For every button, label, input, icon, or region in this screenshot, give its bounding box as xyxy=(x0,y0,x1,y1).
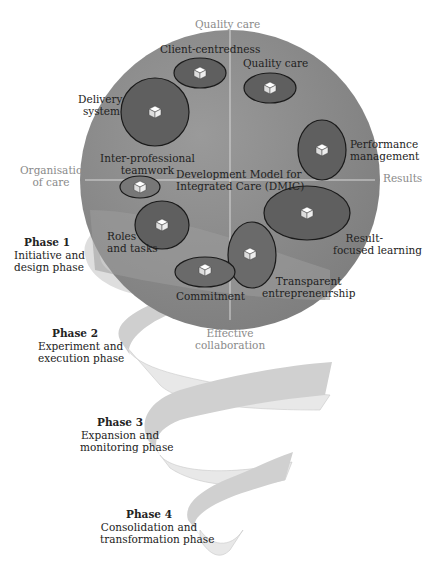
center-label: Development Model for Integrated Care (D… xyxy=(176,168,304,192)
label-line: and tasks xyxy=(107,242,139,254)
label-line: Delivery xyxy=(78,93,120,105)
phase-3-label: Phase 3 Expansion and monitoring phase xyxy=(80,416,160,454)
phase-title: Phase 1 xyxy=(14,236,80,249)
label-inter-professional-teamwork: Inter-professional teamwork xyxy=(100,152,195,176)
label-delivery-system: Delivery system xyxy=(78,93,120,117)
phase-line: monitoring phase xyxy=(80,441,160,454)
axis-left-label: Organisation of care xyxy=(20,164,82,188)
label-line: Performance xyxy=(350,138,419,150)
phase-title: Phase 4 xyxy=(100,508,198,521)
phase-1-label: Phase 1 Initiative and design phase xyxy=(14,236,80,274)
center-label-line1: Development Model for xyxy=(176,168,304,180)
axis-bottom-line2: collaboration xyxy=(195,339,265,351)
label-client-centredness: Client-centredness xyxy=(160,43,260,55)
phase-line: execution phase xyxy=(38,352,112,365)
label-performance-management: Performance management xyxy=(350,138,419,162)
label-line: entrepreneurship xyxy=(262,287,355,299)
label-commitment: Commitment xyxy=(176,290,245,302)
phase-line: Experiment and xyxy=(38,340,112,353)
label-line: Result- xyxy=(333,232,401,244)
label-line: Roles xyxy=(107,230,139,242)
phase-line: Consolidation and xyxy=(100,521,198,534)
phase-4-label: Phase 4 Consolidation and transformation… xyxy=(100,508,198,546)
phase-line: Initiative and xyxy=(14,249,80,262)
label-quality-care: Quality care xyxy=(243,57,308,69)
label-line: Inter-professional xyxy=(100,152,195,164)
label-result-focused-learning: Result- focused learning xyxy=(333,232,401,256)
center-label-line2: Integrated Care (DMIC) xyxy=(176,180,304,192)
label-line: management xyxy=(350,150,419,162)
phase-title: Phase 3 xyxy=(80,416,160,429)
dmic-diagram: Quality care Organisation of care Result… xyxy=(0,0,431,572)
phase-line: Expansion and xyxy=(80,429,160,442)
label-line: teamwork xyxy=(100,164,195,176)
axis-bottom-label: Effective collaboration xyxy=(195,327,265,351)
label-line: Transparent xyxy=(262,275,355,287)
phase-line: design phase xyxy=(14,261,80,274)
label-roles-and-tasks: Roles and tasks xyxy=(107,230,139,254)
axis-left-line1: Organisation xyxy=(20,164,82,176)
label-line: focused learning xyxy=(333,244,401,256)
phase-title: Phase 2 xyxy=(38,327,112,340)
axis-right-label: Results xyxy=(383,172,422,184)
axis-bottom-line1: Effective xyxy=(195,327,265,339)
axis-left-line2: of care xyxy=(20,176,82,188)
diagram-graphics xyxy=(0,0,431,572)
axis-top-label: Quality care xyxy=(195,18,260,30)
label-transparent-entrepreneurship: Transparent entrepreneurship xyxy=(262,275,355,299)
label-line: system xyxy=(78,105,120,117)
phase-2-label: Phase 2 Experiment and execution phase xyxy=(38,327,112,365)
phase-line: transformation phase xyxy=(100,533,198,546)
